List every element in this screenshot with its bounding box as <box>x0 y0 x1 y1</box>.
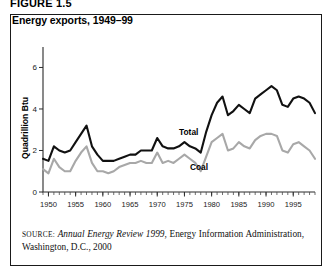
source-prefix: SOURCE: <box>22 230 55 239</box>
source-title: Annual Energy Review 1999 <box>58 229 165 239</box>
x-tick-label: 1990 <box>258 200 275 209</box>
series-label-total: Total <box>179 127 198 137</box>
y-tick-label: 0 <box>33 188 38 197</box>
x-tick-label: 1975 <box>176 200 193 209</box>
y-axis-ticks: 0246 <box>33 63 43 197</box>
x-tick-label: 1960 <box>94 200 111 209</box>
chart-annotations: TotalCoal <box>179 127 208 172</box>
series-line-coal <box>43 134 315 173</box>
y-tick-label: 2 <box>33 146 38 155</box>
y-tick-label: 6 <box>33 63 38 72</box>
chart-axes <box>43 47 315 192</box>
y-tick-label: 4 <box>33 105 38 114</box>
y-axis-title: Quadrillion Btu <box>20 97 30 159</box>
x-axis-ticks: 1950195519601965197019751980198519901995 <box>40 192 302 209</box>
source-note: SOURCE: Annual Energy Review 1999, Energ… <box>22 228 304 254</box>
x-tick-label: 1965 <box>122 200 139 209</box>
x-tick-label: 1950 <box>40 200 57 209</box>
x-tick-label: 1955 <box>67 200 84 209</box>
x-tick-label: 1995 <box>285 200 302 209</box>
x-tick-label: 1985 <box>230 200 247 209</box>
series-label-coal: Coal <box>190 162 208 172</box>
x-tick-label: 1970 <box>149 200 166 209</box>
x-tick-label: 1980 <box>203 200 220 209</box>
